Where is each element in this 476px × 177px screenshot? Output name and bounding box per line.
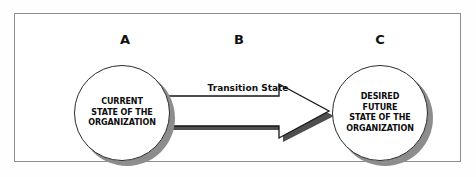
diagram-canvas: A B C Transition State CURRENT STATE OF … xyxy=(0,0,476,177)
node-desired-future-state-line-3: STATE OF THE xyxy=(349,113,410,124)
phase-label-a: A xyxy=(105,32,145,48)
node-desired-future-state-line-1: DESIRED xyxy=(361,92,399,103)
node-current-state-line-2: STATE OF THE xyxy=(91,108,152,119)
node-current-state-line-1: CURRENT xyxy=(101,97,143,108)
diagram-frame: A B C Transition State CURRENT STATE OF … xyxy=(14,13,461,162)
phase-label-c: C xyxy=(360,32,400,48)
node-current-state-line-3: ORGANIZATION xyxy=(88,118,156,129)
node-desired-future-state-text: DESIRED FUTURE STATE OF THE ORGANIZATION xyxy=(332,65,428,161)
node-desired-future-state-line-4: ORGANIZATION xyxy=(346,124,414,135)
transition-arrow-label: Transition State xyxy=(191,83,305,94)
node-current-state-text: CURRENT STATE OF THE ORGANIZATION xyxy=(74,65,170,161)
node-desired-future-state-line-2: FUTURE xyxy=(363,103,398,114)
node-desired-future-state: DESIRED FUTURE STATE OF THE ORGANIZATION xyxy=(332,65,428,161)
node-current-state: CURRENT STATE OF THE ORGANIZATION xyxy=(74,65,170,161)
phase-label-b: B xyxy=(219,32,259,48)
